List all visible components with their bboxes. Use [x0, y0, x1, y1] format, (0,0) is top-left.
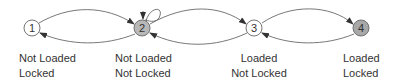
svg-text:4: 4 [358, 22, 364, 34]
edge-2-to-1 [40, 33, 135, 43]
node-3-load-state: Loaded [229, 51, 289, 66]
edge-3-to-4 [262, 9, 353, 24]
edge-4-to-3 [262, 33, 354, 43]
edge-3-to-2 [150, 33, 247, 44]
node-2-load-state: Not Loaded [115, 51, 172, 66]
node-1-load-state: Not Loaded [19, 51, 76, 66]
node-3-lock-state: Not Locked [229, 66, 289, 81]
node-4-load-state: Loaded [343, 51, 380, 66]
node-1: 1 [24, 20, 40, 36]
node-2-lock-state: Not Locked [115, 66, 172, 81]
node-2-label: Not Loaded Not Locked [115, 51, 172, 81]
edge-1-to-2 [39, 10, 134, 24]
svg-text:3: 3 [251, 22, 257, 34]
node-1-label: Not Loaded Locked [19, 51, 76, 81]
node-4: 4 [353, 20, 369, 36]
node-3: 3 [246, 20, 262, 36]
svg-text:2: 2 [139, 22, 145, 34]
node-2: 2 [134, 20, 150, 36]
node-3-label: Loaded Not Locked [229, 51, 289, 81]
edge-2-to-3 [150, 9, 246, 24]
node-4-lock-state: Locked [343, 66, 380, 81]
svg-text:1: 1 [29, 22, 35, 34]
node-1-lock-state: Locked [19, 66, 76, 81]
node-4-label: Loaded Locked [343, 51, 380, 81]
